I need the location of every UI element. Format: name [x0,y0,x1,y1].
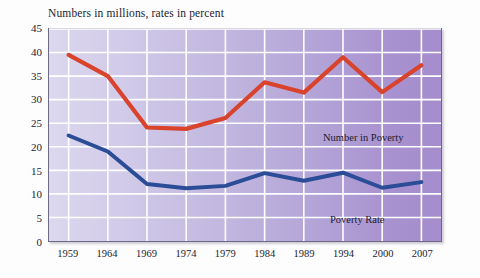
y-axis-tick-label: 45 [14,22,42,34]
y-axis-tick-label: 15 [14,165,42,177]
x-axis-tick-label: 1984 [242,248,288,259]
y-axis-tick-label: 10 [14,188,42,200]
series-line-poverty-rate [69,135,422,188]
series-label-number-in-poverty: Number in Poverty [323,132,404,143]
plot-area: Number in Poverty Poverty Rate [48,28,442,242]
series-line-number-in-poverty [69,55,422,129]
chart-title: Numbers in millions, rates in percent [48,7,224,19]
x-axis-tick-label: 2007 [399,248,445,259]
y-axis-tick-label: 40 [14,46,42,58]
y-axis-tick-label: 0 [14,236,42,248]
x-axis-tick-label: 1989 [281,248,327,259]
y-axis-tick-label: 35 [14,70,42,82]
series-label-poverty-rate: Poverty Rate [330,214,385,225]
y-axis-tick-label: 20 [14,141,42,153]
y-axis-tick-label: 5 [14,212,42,224]
poverty-chart: Numbers in millions, rates in percent Nu… [0,0,480,278]
x-axis-tick-label: 2000 [360,248,406,259]
x-axis-tick-label: 1964 [84,248,130,259]
x-axis-tick-label: 1979 [202,248,248,259]
x-axis-tick-label: 1959 [45,248,91,259]
x-axis-tick-label: 1974 [163,248,209,259]
x-axis-tick-label: 1994 [321,248,367,259]
y-axis-tick-label: 30 [14,93,42,105]
y-axis-tick-label: 25 [14,117,42,129]
x-axis-tick-label: 1969 [124,248,170,259]
